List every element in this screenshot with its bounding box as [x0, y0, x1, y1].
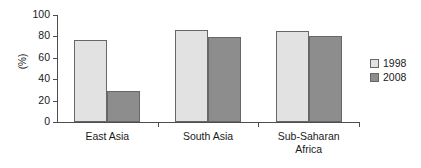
bar-chart: (%) 020406080100 East AsiaSouth AsiaSub-…	[0, 0, 421, 168]
y-axis-tick-label: 60	[38, 51, 50, 64]
legend-swatch-icon-2008	[370, 73, 379, 82]
legend-item-2008: 2008	[370, 70, 406, 84]
legend-label-1998: 1998	[383, 56, 406, 70]
bar-2008	[309, 36, 342, 122]
y-axis-tick-mark	[53, 15, 57, 16]
y-axis-title: (%)	[17, 50, 28, 74]
legend-label-2008: 2008	[383, 70, 406, 84]
plot-area: 020406080100	[57, 10, 359, 126]
y-axis-tick-label: 0	[44, 115, 50, 128]
legend-item-1998: 1998	[370, 56, 406, 70]
y-axis-tick-mark	[53, 79, 57, 80]
legend-swatch-icon-1998	[370, 59, 379, 68]
x-axis-tick-mark	[359, 122, 360, 127]
bar-2008	[107, 91, 140, 122]
x-axis-tick-mark	[158, 122, 159, 127]
y-axis-tick-label: 40	[38, 72, 50, 85]
bar-1998	[175, 30, 208, 122]
x-axis-category-label: East Asia	[57, 130, 158, 143]
y-axis-tick-mark	[53, 122, 57, 123]
y-axis-tick-mark	[53, 101, 57, 102]
x-axis-category-label: South Asia	[158, 130, 259, 143]
x-axis-line	[57, 122, 359, 123]
y-axis-tick-mark	[53, 36, 57, 37]
y-axis-tick-label: 80	[38, 29, 50, 42]
y-axis-tick-mark	[53, 58, 57, 59]
y-axis-tick-label: 20	[38, 94, 50, 107]
bar-1998	[276, 31, 309, 122]
x-axis-tick-mark	[258, 122, 259, 127]
y-axis-line	[57, 15, 58, 122]
y-axis-tick-label: 100	[32, 8, 50, 21]
x-axis-category-label: Sub-Saharan Africa	[258, 130, 359, 155]
bar-2008	[208, 37, 241, 122]
bar-1998	[74, 40, 107, 122]
legend: 1998 2008	[370, 56, 406, 84]
